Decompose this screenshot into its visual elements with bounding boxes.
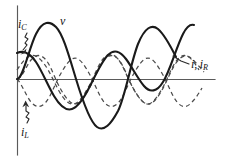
- waveform-figure: iC v iL i, iR: [0, 0, 226, 160]
- label-i-c: iC: [18, 18, 27, 32]
- label-i-l: iL: [21, 126, 29, 140]
- waveform-plot: [0, 0, 226, 160]
- i-l-arrow-squiggle: [26, 106, 29, 123]
- label-v: v: [60, 15, 65, 27]
- solid-curves-group: [17, 23, 194, 129]
- label-separator: ,: [194, 57, 197, 71]
- curve-v: [17, 23, 176, 129]
- label-i-c-subscript: C: [21, 23, 26, 32]
- label-i-l-subscript: L: [24, 131, 29, 140]
- curve-i-c: [17, 25, 194, 110]
- label-v-symbol: v: [60, 14, 65, 28]
- label-i-and-i-r: i, iR: [191, 58, 208, 72]
- i-c-arrow-squiggle: [23, 33, 28, 50]
- label-i-r-subscript: R: [203, 63, 208, 72]
